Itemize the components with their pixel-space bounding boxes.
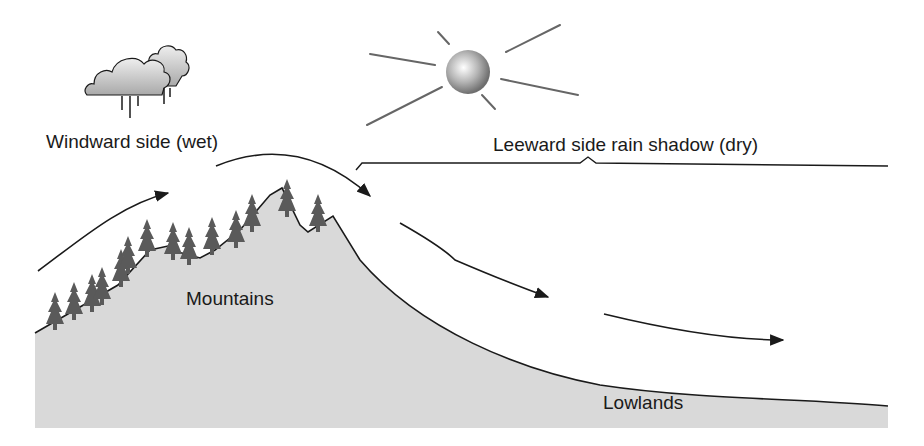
crest-arrow [216, 154, 370, 196]
leeward-descending-arrow-1 [400, 223, 548, 297]
rain-cloud-icon [85, 46, 189, 118]
sun-icon [367, 25, 578, 125]
mountains-label: Mountains [186, 289, 274, 308]
windward-label: Windward side (wet) [46, 132, 218, 151]
land-mass [35, 188, 888, 428]
leeward-descending-arrow-2 [604, 314, 783, 340]
leeward-bracket [356, 157, 888, 170]
rain-shadow-diagram [0, 0, 924, 446]
lowlands-label: Lowlands [603, 393, 683, 412]
leeward-label: Leeward side rain shadow (dry) [493, 135, 758, 154]
